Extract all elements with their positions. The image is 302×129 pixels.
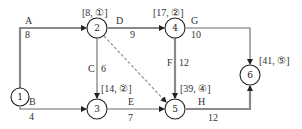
edge-b: B 4 (20, 96, 86, 122)
node-5-annotation: [39, ④] (180, 83, 211, 94)
node-3-label: 3 (94, 104, 100, 114)
node-2-annotation: [8, ①] (82, 7, 108, 18)
edge-f-duration: 12 (179, 57, 189, 68)
edge-g-name: G (191, 15, 198, 26)
node-2: 2 [8, ①] (82, 7, 108, 38)
node-6-annotation: [41, ⑤] (259, 55, 290, 66)
node-1-label: 1 (17, 92, 23, 102)
edge-b-duration: 4 (29, 111, 34, 122)
node-6-label: 6 (247, 70, 253, 80)
edge-e: E 7 (108, 96, 164, 123)
edge-a-duration: 8 (25, 29, 30, 40)
node-1: 1 (11, 88, 29, 106)
edge-c-duration: 6 (101, 63, 106, 74)
edge-a: A 8 (20, 15, 86, 88)
edge-d-name: D (116, 15, 123, 26)
node-3-annotation: [14, ②] (101, 83, 132, 94)
node-4: 4 [17, ②] (153, 7, 185, 38)
edge-g-duration: 10 (191, 29, 201, 40)
edge-f-name: F (167, 57, 173, 68)
node-4-label: 4 (172, 23, 178, 33)
edge-d: D 9 (108, 15, 164, 40)
node-5-label: 5 (172, 104, 178, 114)
edge-e-duration: 7 (128, 112, 133, 123)
node-3: 3 [14, ②] (87, 83, 132, 119)
edge-c-name: C (88, 63, 95, 74)
edge-b-name: B (29, 96, 36, 107)
edge-h-name: H (198, 96, 205, 107)
node-2-label: 2 (94, 23, 100, 33)
node-4-annotation: [17, ②] (153, 7, 184, 18)
edge-h-duration: 12 (208, 112, 218, 123)
edge-d-duration: 9 (130, 29, 135, 40)
edge-g: G 10 (186, 15, 250, 64)
network-diagram: A 8 B 4 C 6 D 9 E 7 F 12 G 10 (0, 0, 302, 129)
edge-a-name: A (25, 15, 33, 26)
edge-e-name: E (128, 96, 134, 107)
node-6: 6 [41, ⑤] (240, 55, 290, 85)
